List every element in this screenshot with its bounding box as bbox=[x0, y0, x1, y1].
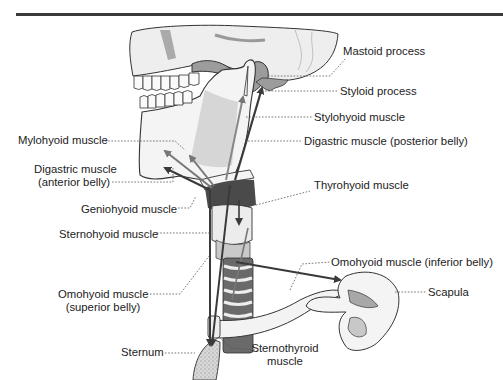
label-geniohyoid-muscle: Geniohyoid muscle bbox=[81, 203, 177, 216]
label-thyrohyoid-muscle: Thyrohyoid muscle bbox=[314, 179, 409, 192]
label-sternothyroid-muscle: Sternothyroid muscle bbox=[250, 342, 320, 368]
label-digastric-anterior-line2: (anterior belly) bbox=[34, 176, 114, 189]
anatomy-illustration bbox=[0, 0, 503, 380]
label-digastric-anterior: Digastric muscle (anterior belly) bbox=[34, 163, 114, 189]
label-stylohyoid-muscle: Stylohyoid muscle bbox=[314, 111, 405, 124]
label-sternohyoid-muscle: Sternohyoid muscle bbox=[59, 228, 158, 241]
label-digastric-anterior-line1: Digastric muscle bbox=[34, 163, 114, 176]
label-omohyoid-superior-line1: Omohyoid muscle bbox=[58, 288, 148, 301]
label-scapula: Scapula bbox=[428, 286, 469, 299]
label-mylohyoid-muscle: Mylohyoid muscle bbox=[18, 134, 108, 147]
label-omohyoid-inferior: Omohyoid muscle (inferior belly) bbox=[331, 256, 493, 269]
label-omohyoid-superior-line2: (superior belly) bbox=[58, 301, 148, 314]
sternum-shape bbox=[193, 340, 220, 380]
label-sternum: Sternum bbox=[121, 346, 164, 359]
scapula-shape bbox=[306, 272, 399, 350]
label-styloid-process: Styloid process bbox=[340, 85, 417, 98]
label-sternothyroid-line2: muscle bbox=[250, 355, 320, 368]
label-sternothyroid-line1: Sternothyroid bbox=[250, 342, 320, 355]
label-mastoid-process: Mastoid process bbox=[343, 45, 425, 58]
label-digastric-posterior: Digastric muscle (posterior belly) bbox=[304, 135, 468, 148]
label-omohyoid-superior: Omohyoid muscle (superior belly) bbox=[58, 288, 148, 314]
